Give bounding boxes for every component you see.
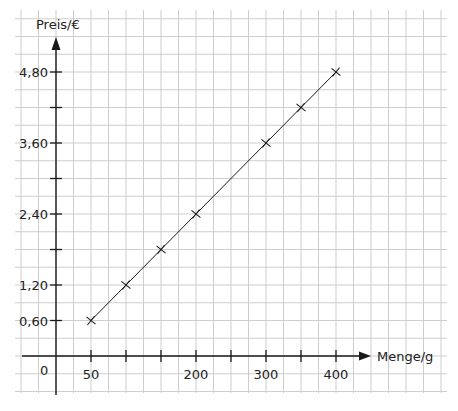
x-tick-label: 300 (254, 367, 279, 382)
y-axis-arrow-icon (52, 37, 61, 50)
y-axis-title: Preis/€ (36, 17, 80, 32)
y-tick-label: 0,60 (19, 314, 48, 329)
x-axis-arrow-icon (359, 352, 371, 361)
y-tick-label: 4,80 (19, 65, 48, 80)
x-tick-label: 50 (83, 367, 100, 382)
x-axis-title: Menge/g (377, 349, 433, 364)
x-tick-label: 400 (324, 367, 349, 382)
y-tick-label: 1,20 (19, 278, 48, 293)
price-quantity-chart: 502003004000,601,202,403,604,80 Preis/€ … (0, 0, 458, 411)
grid-lines (15, 10, 447, 393)
y-tick-label: 3,60 (19, 136, 48, 151)
y-tick-label: 2,40 (19, 207, 48, 222)
axis-ticks: 502003004000,601,202,403,604,80 (19, 65, 348, 382)
origin-label: 0 (40, 363, 48, 378)
x-tick-label: 200 (184, 367, 209, 382)
